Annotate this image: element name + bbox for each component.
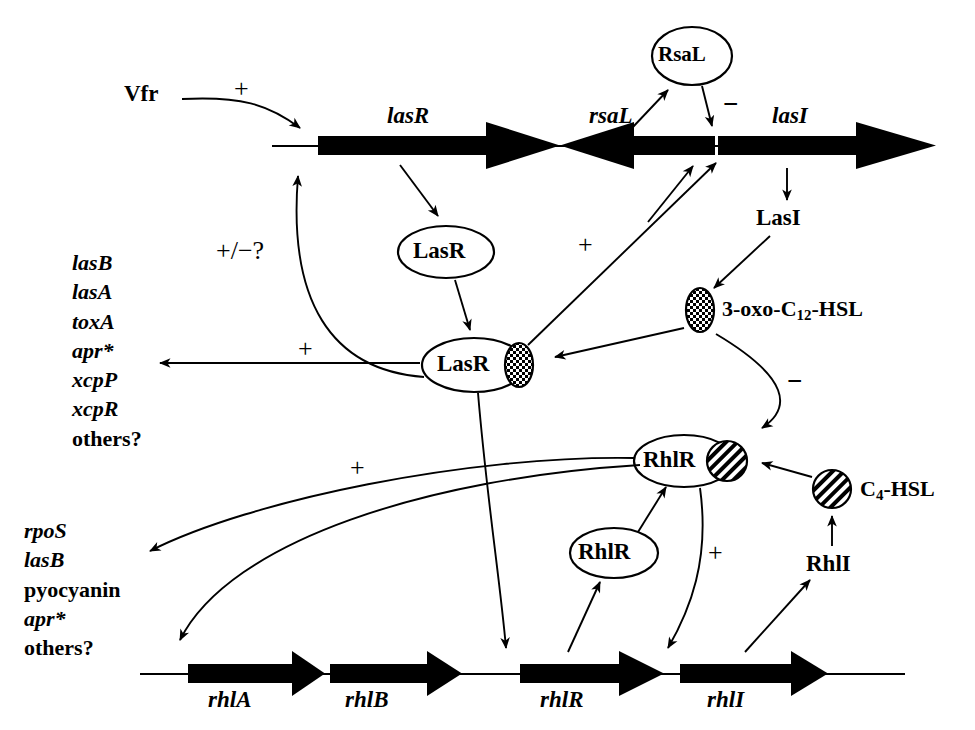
sign-rhlI-promoter-plus: + — [708, 540, 723, 566]
hsl-long-subscript: 12 — [797, 307, 812, 323]
rhl-target-item: rpoS — [24, 516, 121, 545]
arrow-LasR-complex-to-rhlR-promoter — [478, 393, 506, 648]
rhlr-protein-label: RhlR — [578, 540, 630, 563]
hsl-short-prefix: C — [860, 476, 876, 501]
rhl-target-item: lasB — [24, 545, 121, 574]
arrow-lasR-gene-to-LasR — [400, 165, 438, 216]
las-target-item: toxA — [72, 307, 142, 336]
arrow-RsaL-inhibits-lasI — [702, 86, 712, 126]
lasi-protein-label: LasI — [756, 206, 801, 229]
gene-label-rhlR: rhlR — [540, 688, 583, 711]
sign-rsal-minus: − — [723, 91, 738, 118]
arrow-C4HSL-to-RhlR-complex — [762, 463, 812, 477]
gene-block-lasR — [318, 122, 560, 169]
lasr-protein-label: LasR — [413, 239, 465, 262]
gene-label-rsaL: rsaL — [589, 104, 632, 127]
hsl-long-prefix: 3-oxo-C — [722, 296, 797, 321]
arrow-LasR-to-complex — [455, 280, 470, 330]
lasr-complex-label: LasR — [437, 352, 489, 375]
las-target-item: apr* — [72, 336, 142, 365]
rhl-target-item: others? — [24, 633, 121, 662]
hsl-long-suffix: -HSL — [812, 296, 863, 321]
las-target-item: xcpR — [72, 394, 142, 423]
sign-rhl-targets-plus: + — [350, 455, 365, 481]
arrow-rhlI-gene-to-RhlI — [745, 580, 810, 652]
arrow-LasR-complex-to-rsaL-promoter — [648, 166, 693, 222]
diagram-canvas: Vfr + lasR rsaL lasI RsaL − LasR LasI La… — [0, 0, 975, 730]
gene-block-rsaL — [560, 122, 715, 169]
rhl-target-item: pyocyanin — [24, 575, 121, 604]
gene-label-rhlI: rhlI — [707, 688, 744, 711]
arrow-rsaL-gene-to-RsaL — [632, 90, 668, 128]
gene-label-lasR: lasR — [387, 104, 429, 127]
sign-lasR-feedback: +/−? — [216, 238, 264, 264]
gene-label-rhlA: rhlA — [208, 688, 251, 711]
hsl-short-suffix: -HSL — [883, 476, 934, 501]
lasr-bound-autoinducer-icon — [505, 343, 533, 387]
arrow-autoinducer-to-LasR-complex — [555, 328, 684, 357]
vfr-label: Vfr — [124, 82, 158, 105]
gene-block-lasI — [718, 122, 936, 169]
autoinducer-c4-hsl-label: C4-HSL — [860, 478, 935, 503]
arrow-RhlR-to-complex — [638, 487, 666, 532]
las-regulated-genes-list: lasB lasA toxA apr* xcpP xcpR others? — [72, 248, 142, 453]
las-target-item: lasA — [72, 277, 142, 306]
autoinducer-3oxo-c12-hsl-icon — [686, 288, 714, 332]
las-target-item: lasB — [72, 248, 142, 277]
autoinducer-c4-hsl-icon — [813, 470, 851, 508]
sign-lasI-promoter-plus: + — [578, 232, 593, 258]
rhl-regulated-genes-list: rpoS lasB pyocyanin apr* others? — [24, 516, 121, 662]
arrow-LasR-complex-feedback-to-lasR-promoter — [297, 176, 424, 377]
sign-las-targets-plus: + — [298, 336, 313, 362]
gene-block-rhlI — [680, 651, 828, 696]
rhlr-complex-label: RhlR — [643, 448, 695, 471]
rhl-target-item: apr* — [24, 604, 121, 633]
arrow-LasI-to-autoinducer — [714, 236, 770, 288]
autoinducer-3oxo-c12-hsl-label: 3-oxo-C12-HSL — [722, 298, 863, 323]
sign-hsl-inhibits-rhlr-minus: − — [787, 368, 802, 395]
rsal-protein-label: RsaL — [658, 44, 706, 65]
gene-label-rhlB: rhlB — [345, 688, 388, 711]
arrow-rhlR-gene-to-RhlR — [568, 582, 600, 652]
las-target-item: xcpP — [72, 365, 142, 394]
gene-label-lasI: lasI — [772, 104, 808, 127]
arrow-autoinducer-inhibits-RhlR — [716, 334, 780, 428]
sign-vfr-plus: + — [234, 76, 249, 102]
arrow-RhlR-complex-to-rhlI-promoter — [668, 488, 703, 648]
rhli-protein-label: RhlI — [806, 552, 851, 575]
las-target-item: others? — [72, 424, 142, 453]
rhlr-bound-autoinducer-icon — [707, 441, 747, 481]
